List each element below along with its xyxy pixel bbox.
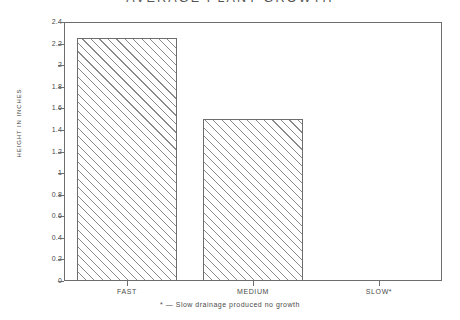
y-tick-mark (58, 108, 64, 109)
y-tick-mark (58, 152, 64, 153)
y-tick-label: 1.8 (0, 82, 62, 92)
y-tick-mark (58, 216, 64, 217)
x-tick-label: MEDIUM (193, 288, 313, 295)
y-tick-label: 2.2 (0, 39, 62, 49)
x-tick-mark (253, 281, 254, 286)
x-tick-label: FAST (67, 288, 187, 295)
y-tick-label: 0.4 (0, 233, 62, 243)
x-tick-mark (379, 281, 380, 286)
y-tick-label: 2.4 (0, 17, 62, 27)
y-tick-mark (58, 173, 64, 174)
bar (203, 119, 303, 281)
y-tick-mark (58, 44, 64, 45)
bar (77, 38, 177, 281)
y-tick-mark (58, 65, 64, 66)
y-tick-mark (58, 195, 64, 196)
y-tick-mark (58, 22, 64, 23)
y-tick-label: 1.4 (0, 125, 62, 135)
footnote-annotation: * — Slow drainage produced no growth (0, 301, 460, 308)
y-tick-label: 0.2 (0, 254, 62, 264)
x-tick-mark (127, 281, 128, 286)
y-tick-mark (58, 238, 64, 239)
y-tick-label: 2 (0, 60, 62, 70)
y-tick-mark (58, 87, 64, 88)
chart-title: AVERAGE PLANT GROWTH (0, 0, 460, 5)
y-tick-label: 1 (0, 168, 62, 178)
y-tick-label: 0.8 (0, 190, 62, 200)
y-tick-label: 0 (0, 276, 62, 286)
y-tick-mark (58, 130, 64, 131)
y-tick-label: 1.2 (0, 147, 62, 157)
y-tick-mark (58, 281, 64, 282)
y-tick-mark (58, 259, 64, 260)
x-tick-label: SLOW* (319, 288, 439, 295)
chart-canvas: AVERAGE PLANT GROWTH HEIGHT IN INCHES 2.… (0, 0, 460, 320)
y-tick-label: 1.6 (0, 103, 62, 113)
y-tick-label: 0.6 (0, 211, 62, 221)
